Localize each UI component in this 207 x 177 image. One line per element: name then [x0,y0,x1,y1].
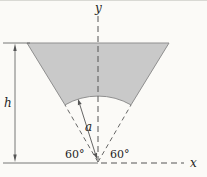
shaded-region [27,43,169,105]
angle-label-right: 60° [110,148,130,161]
geometry-diagram: y x h a 60° 60° [0,0,207,177]
height-arrowhead-bottom [13,155,16,163]
radius-arrowhead-arc [78,99,82,105]
y-axis-label: y [94,1,102,15]
diagram-svg: y x h a 60° 60° [0,1,207,177]
angle-label-left: 60° [65,148,85,161]
height-arrowhead-top [13,44,16,52]
radius-arrowhead-origin [93,153,97,159]
radius-label: a [85,120,92,134]
height-label: h [4,96,12,110]
x-axis-label: x [190,156,197,170]
